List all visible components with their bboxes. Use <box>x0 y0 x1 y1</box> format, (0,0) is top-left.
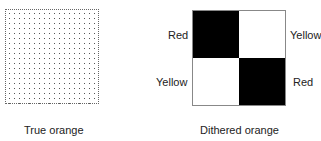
label-top-left: Red <box>168 29 188 41</box>
true-orange-swatch <box>5 9 99 104</box>
dithered-orange-caption: Dithered orange <box>200 124 279 136</box>
dithered-orange-grid <box>192 10 286 106</box>
label-bottom-right: Red <box>293 76 313 88</box>
cell-bottom-right <box>239 58 285 105</box>
cell-top-right <box>239 11 285 58</box>
cell-bottom-left <box>193 58 239 105</box>
label-bottom-left: Yellow <box>156 76 187 88</box>
true-orange-caption: True orange <box>24 124 84 136</box>
cell-top-left <box>193 11 239 58</box>
label-top-right: Yellow <box>290 29 321 41</box>
